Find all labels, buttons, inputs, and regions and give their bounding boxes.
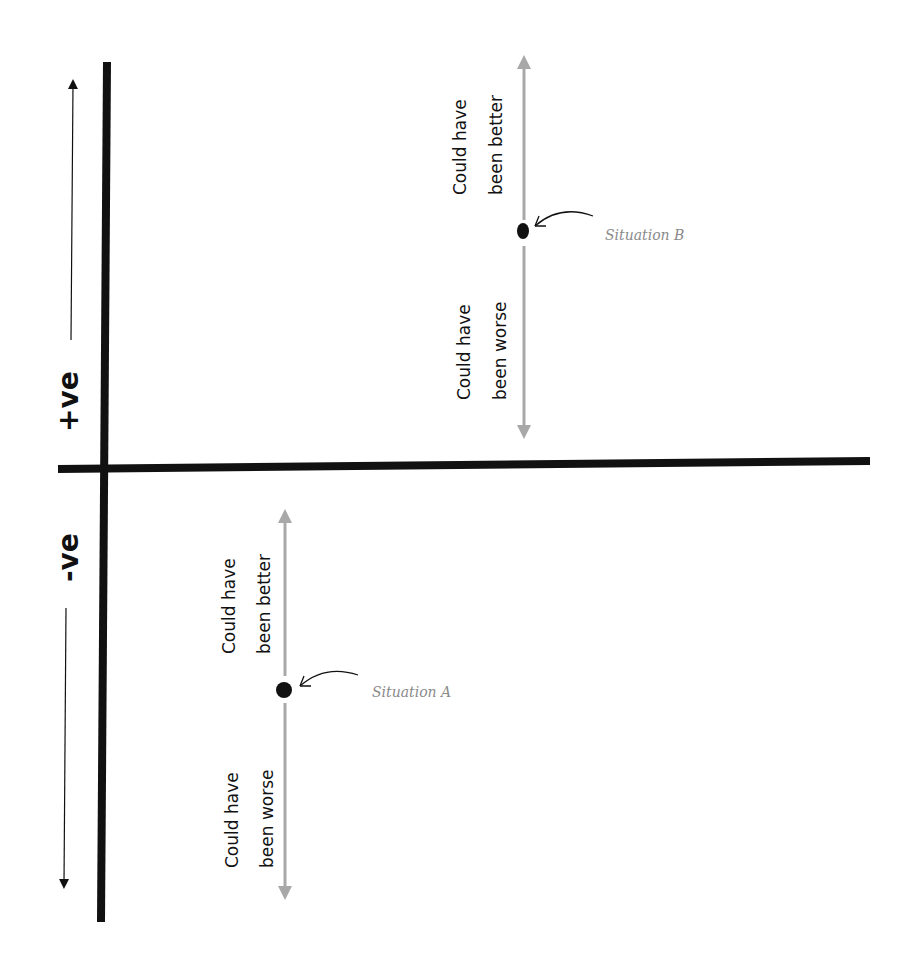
vertical-axis: [101, 62, 107, 922]
situation-b-worse-line1: Could have: [454, 304, 474, 400]
situation-b-better-line1: Could have: [450, 99, 470, 195]
situation-b-label: Situation B: [605, 227, 684, 243]
horizontal-axis: [58, 461, 870, 469]
diagram-canvas: +ve -ve Situation B Could have been bett…: [0, 0, 915, 962]
negative-direction-arrow: [64, 608, 66, 884]
situation-a-better-line2: been better: [254, 554, 274, 654]
situation-b-pointer-arrow: [535, 212, 593, 226]
situation-a-dot: [276, 682, 292, 698]
situation-a-worse-line2: been worse: [257, 770, 277, 869]
positive-direction-arrow: [71, 84, 73, 340]
situation-b-dot: [517, 223, 529, 239]
situation-b-worse-line2: been worse: [490, 302, 510, 401]
situation-a-pointer-arrow: [300, 671, 358, 686]
situation-a-label: Situation A: [372, 684, 451, 700]
situation-a-worse-line1: Could have: [222, 772, 242, 868]
situation-a-better-line1: Could have: [219, 558, 239, 654]
negative-label: -ve: [52, 533, 85, 582]
situation-b-better-line2: been better: [486, 95, 506, 195]
positive-label: +ve: [52, 371, 85, 432]
